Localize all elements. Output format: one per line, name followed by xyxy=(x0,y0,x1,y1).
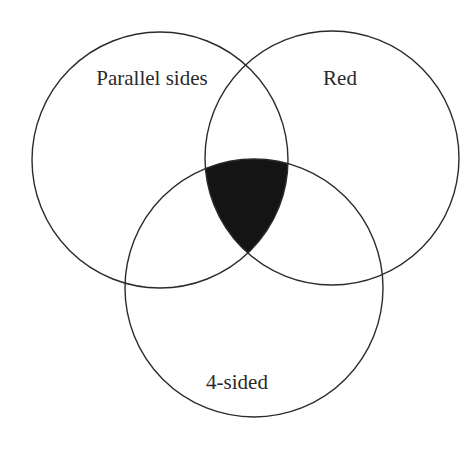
label-red: Red xyxy=(323,66,357,90)
label-parallel-sides: Parallel sides xyxy=(96,66,207,90)
label-4-sided: 4-sided xyxy=(206,370,268,394)
venn-diagram: Parallel sides Red 4-sided xyxy=(0,0,474,449)
venn-svg: Parallel sides Red 4-sided xyxy=(0,0,474,449)
